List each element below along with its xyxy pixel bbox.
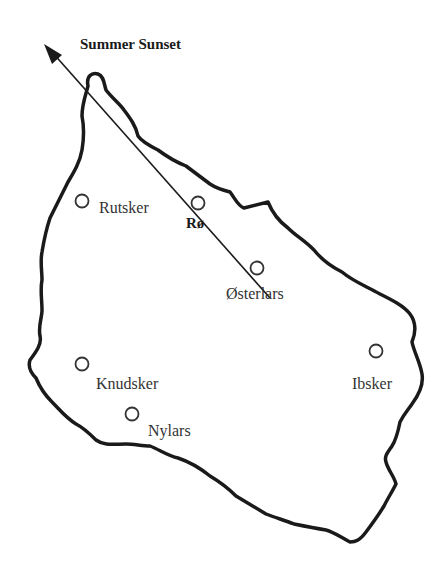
place-label-nylars: Nylars [148,423,191,439]
place-label-rutsker: Rutsker [99,200,149,216]
place-label-osterlars: Østerlars [226,286,284,302]
diagram-title: Summer Sunset [80,37,181,52]
place-label-ibsker: Ibsker [352,376,392,392]
place-label-knudsker: Knudsker [96,376,158,392]
map-svg [0,0,447,576]
island-outline [29,74,422,543]
place-label-ro: Rø [186,216,204,231]
island-map-diagram: Summer Sunset Rutsker Rø Østerlars Knuds… [0,0,447,576]
